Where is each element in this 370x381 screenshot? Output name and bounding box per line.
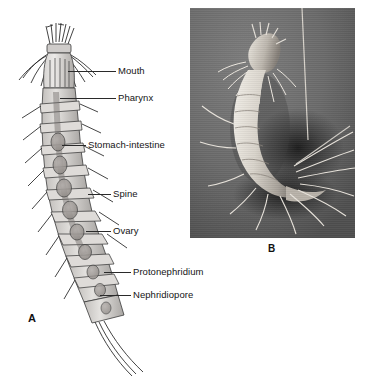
figure-container: Mouth Pharynx Stomach-intestine Spine Ov… — [0, 0, 370, 381]
callout-ovary: Ovary — [113, 226, 139, 236]
micrograph-svg — [190, 8, 355, 238]
panel-a-letter: A — [28, 312, 36, 324]
leader-line-spine — [88, 194, 111, 195]
leader-line-protonephridium — [104, 272, 131, 273]
callout-stomach-intestine: Stomach-intestine — [88, 140, 165, 150]
leader-line-ovary — [86, 231, 111, 232]
callout-protonephridium: Protonephridium — [133, 267, 203, 277]
panel-b-letter: B — [268, 243, 276, 254]
panel-b-micrograph — [190, 8, 355, 238]
leader-line-mouth — [68, 71, 116, 72]
callout-nephridiopore: Nephridiopore — [133, 290, 193, 300]
leader-line-nephridiopore — [100, 295, 131, 296]
panel-a-line-drawing: Mouth Pharynx Stomach-intestine Spine Ov… — [0, 0, 190, 381]
callout-spine: Spine — [113, 189, 138, 199]
mouth-ring — [47, 44, 71, 53]
terminal-filaments — [95, 321, 143, 376]
callout-mouth: Mouth — [118, 66, 145, 76]
leader-line-pharynx — [60, 98, 116, 99]
corona-cilia — [46, 23, 74, 44]
callout-pharynx: Pharynx — [118, 93, 153, 103]
leader-line-stomach-intestine — [62, 145, 86, 146]
